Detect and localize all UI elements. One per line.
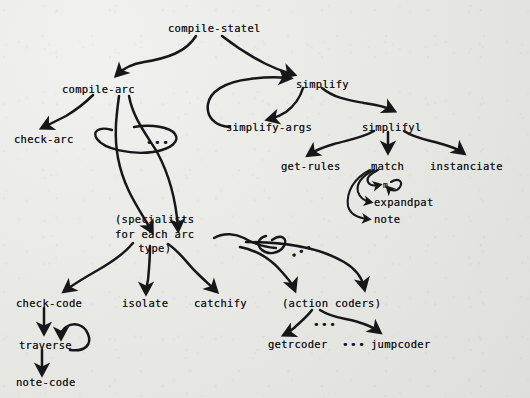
- edge-simplify1-to-instanciate: [404, 131, 462, 152]
- node-check-arc: check-arc: [14, 133, 74, 146]
- node-note: note: [374, 213, 401, 226]
- node-note-code: note-code: [16, 376, 76, 389]
- node-catchify: catchify: [194, 297, 247, 310]
- edge-compile-arc-to-specialists-a: [116, 96, 151, 230]
- node-simplify: simplify: [296, 78, 349, 91]
- node-compile-state1: compile-statel: [168, 22, 261, 35]
- edge-simplify-to-simplify1: [322, 88, 392, 110]
- edge-compile-state1-to-compile-arc: [118, 36, 196, 74]
- edge-compile-arc-to-check-arc: [44, 95, 93, 127]
- edge-simplify-to-simplify-args: [270, 88, 303, 119]
- node-action-coders: (action coders): [282, 297, 381, 310]
- node-isolate: isolate: [122, 297, 168, 310]
- node-check-code: check-code: [16, 297, 82, 310]
- node-instanciate: instanciate: [430, 160, 503, 173]
- edge-compile-arc-to-specialists-b: [129, 96, 178, 228]
- edge-compile-state1-to-simplify: [222, 36, 292, 74]
- node-getrcoder: getrcoder: [268, 338, 328, 351]
- node-match: match: [371, 160, 404, 173]
- ellipsis-action-coders-fanout: •••: [313, 318, 337, 331]
- node-specialists: (specialists for each arc type): [115, 212, 194, 256]
- ellipsis-coders-row: •••: [342, 338, 366, 351]
- edge-action-coders-to-getrcoder: [286, 310, 312, 334]
- node-compile-arc: compile-arc: [62, 83, 135, 96]
- node-get-rules: get-rules: [281, 160, 341, 173]
- ellipsis-compile-arc-fanout: •••: [146, 136, 170, 149]
- edge-simplify1-to-get-rules: [310, 131, 374, 154]
- node-expandpat: expandpat: [374, 196, 434, 209]
- hand-drawn-call-graph: .e { fill:none; stroke:#17171a; stroke-w…: [0, 0, 530, 398]
- node-jumpcoder: jumpcoder: [371, 338, 431, 351]
- edge-layer: .e { fill:none; stroke:#17171a; stroke-w…: [0, 0, 530, 398]
- node-traverse: traverse: [19, 339, 72, 352]
- edge-m-self-loop: [388, 180, 401, 191]
- node-simplify-args: simplify-args: [226, 121, 312, 134]
- edge-simplify-args-to-simplify: [208, 77, 288, 127]
- node-simplify1: simplifyl: [362, 121, 422, 134]
- node-m: m: [383, 179, 388, 192]
